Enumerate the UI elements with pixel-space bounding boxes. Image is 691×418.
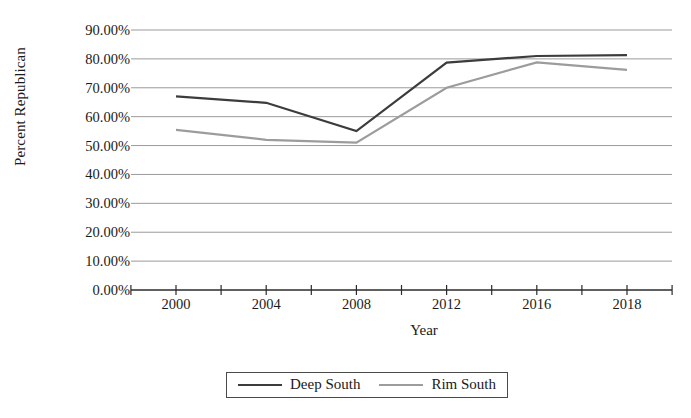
legend-entry: Rim South [379, 376, 496, 393]
x-axis-tick-label: 2016 [492, 296, 582, 313]
gridlines [131, 30, 672, 261]
legend-line-swatch [379, 384, 423, 386]
x-axis-tick-label: 2018 [582, 296, 672, 313]
chart-legend: Deep SouthRim South [226, 372, 508, 398]
series-line [176, 55, 627, 131]
legend-entry: Deep South [238, 376, 360, 393]
x-axis-tick-label: 2000 [131, 296, 221, 313]
x-axis-tick-label: 2008 [311, 296, 401, 313]
plot-area [0, 0, 691, 418]
legend-label: Rim South [431, 376, 496, 393]
x-axis-tick-label: 2012 [402, 296, 492, 313]
x-axis-tick-label: 2004 [221, 296, 311, 313]
legend-line-swatch [238, 384, 282, 386]
series-lines [176, 55, 627, 143]
x-axis-title: Year [176, 322, 672, 339]
line-chart: Percent Republican 0.00%10.00%20.00%30.0… [0, 0, 691, 418]
series-line [176, 62, 627, 142]
legend-label: Deep South [290, 376, 360, 393]
